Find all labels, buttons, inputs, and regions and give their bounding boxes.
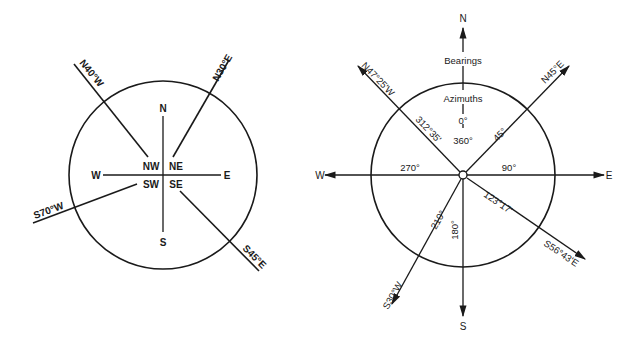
diagram-canvas: N S W E NW NE SW SE N40°W N30°E S70°W S4… — [0, 0, 639, 348]
azimuth-90-label: 90° — [502, 162, 517, 173]
left-label-sw: SW — [143, 179, 160, 190]
azimuth-123-label: 123°17' — [482, 189, 515, 216]
right-line-s56e — [467, 178, 585, 259]
left-label-n30e: N30°E — [210, 52, 234, 83]
azimuth-0-label: 0° — [458, 115, 467, 126]
left-line-s45e — [180, 191, 259, 271]
left-label-s: S — [160, 237, 167, 248]
bearing-n45e-label: N45°E — [539, 58, 566, 85]
left-line-n40w — [74, 64, 148, 157]
right-label-w: W — [315, 170, 325, 181]
right-label-n: N — [459, 13, 466, 24]
right-label-s: S — [460, 321, 467, 332]
azimuth-45-label: 45° — [491, 125, 509, 143]
left-label-w: W — [91, 170, 101, 181]
left-label-e: E — [224, 170, 231, 181]
left-compass-diagram: N S W E NW NE SW SE N40°W N30°E S70°W S4… — [32, 52, 269, 271]
right-compass-diagram: N S W E Bearings Azimuths 0° 360° 90° 27… — [315, 13, 612, 332]
bearing-n47w-label: N47°25'W — [360, 60, 398, 98]
azimuth-210-label: 210° — [428, 208, 447, 231]
azimuth-270-label: 270° — [400, 162, 420, 173]
left-label-nw: NW — [143, 161, 160, 172]
center-point — [459, 171, 467, 179]
left-label-n: N — [159, 103, 166, 114]
bearing-s30w-label: S30°W — [380, 280, 404, 311]
azimuth-360-label: 360° — [453, 135, 473, 146]
azimuths-heading: Azimuths — [443, 93, 482, 104]
left-label-se: SE — [169, 179, 183, 190]
azimuth-180-label: 180° — [449, 220, 460, 240]
right-label-e: E — [606, 170, 613, 181]
bearings-heading: Bearings — [444, 55, 482, 66]
left-label-ne: NE — [169, 161, 183, 172]
